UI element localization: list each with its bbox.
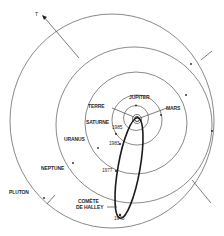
orbit-tick-right-top: [201, 51, 212, 60]
label-saturne: SATURNE: [86, 119, 109, 125]
planet-dot: [211, 130, 213, 132]
label-terre: TERRE: [88, 103, 104, 109]
planet-dot: [135, 105, 137, 107]
comet-dot: [115, 133, 117, 135]
direction-arrow: [44, 17, 79, 58]
planet-dot: [160, 114, 162, 116]
orbit-neptune: [56, 47, 212, 203]
year-1983: 1983: [109, 141, 119, 147]
label-mars: MARS: [166, 105, 180, 111]
label-uranus: URANUS: [64, 136, 85, 142]
label-neptune: NEPTUNE: [41, 165, 64, 171]
planet-dot: [190, 63, 192, 65]
planet-dot: [185, 94, 187, 96]
direction-label: T: [35, 11, 38, 17]
label-comet-line2: DE HALLEY: [76, 204, 103, 210]
solar-system-diagram: [0, 0, 224, 236]
orbit-tick-right-bottom: [192, 180, 211, 203]
year-1985: 1985: [112, 125, 122, 131]
year-1948: 1948: [114, 216, 124, 222]
orbit-tick-left-bottom: [47, 195, 55, 204]
comet-dot: [119, 143, 121, 145]
leader-terre: [112, 108, 134, 117]
year-1977: 1977: [102, 168, 112, 174]
leader-mars: [140, 108, 167, 118]
planet-dot: [72, 162, 74, 164]
label-jupiter: JUPITER: [129, 94, 149, 100]
planet-dot: [43, 197, 45, 199]
planet-dot: [97, 147, 99, 149]
label-pluton: PLUTON: [9, 189, 29, 195]
comet-dot: [115, 170, 117, 172]
